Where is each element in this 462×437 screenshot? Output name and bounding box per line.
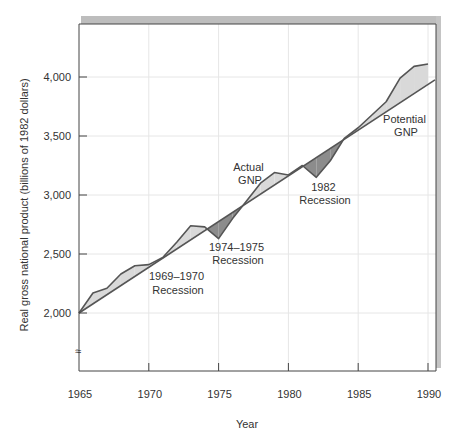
plot-area (79, 24, 436, 371)
y-tick-label: 3,500 (43, 130, 71, 142)
y-tick-label: 2,500 (43, 248, 71, 260)
annotation-1974-recession: 1974–1975 Recession (209, 241, 267, 266)
x-tick-label: 1970 (138, 388, 162, 400)
x-axis-title: Year (236, 418, 259, 430)
gnp-chart: 2,0002,5003,0003,5004,000 19651970197519… (0, 0, 462, 437)
y-axis-title: Real gross national product (billions of… (18, 78, 30, 331)
frame-shadow-right-lower (436, 16, 441, 368)
y-tick-label: 2,000 (43, 307, 71, 319)
x-tick-label: 1990 (417, 388, 441, 400)
frame-shadow-top (81, 16, 441, 24)
axis-break-icon: ≈ (75, 345, 81, 357)
annotation-actual-gnp: Actual GNP (233, 161, 267, 186)
x-tick-label: 1985 (347, 388, 371, 400)
y-tick-label: 4,000 (43, 71, 71, 83)
x-tick-label: 1980 (277, 388, 301, 400)
y-tick-label: 3,000 (43, 189, 71, 201)
x-tick-label: 1975 (207, 388, 231, 400)
x-tick-label: 1965 (68, 388, 92, 400)
